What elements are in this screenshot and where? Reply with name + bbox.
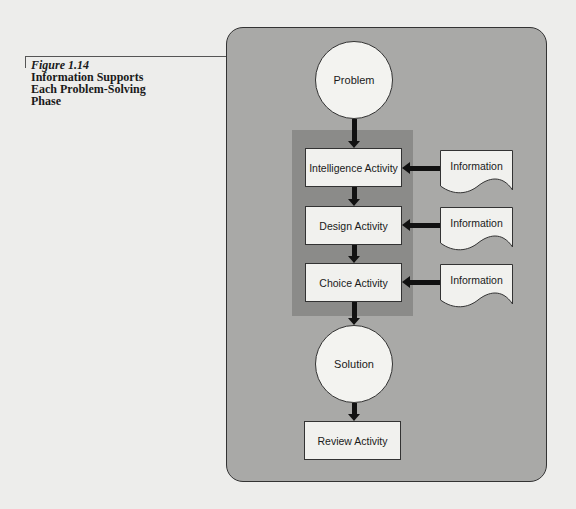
arrowhead-down-icon bbox=[348, 318, 360, 325]
problem-node: Problem bbox=[315, 41, 393, 119]
arrowhead-left-icon bbox=[402, 162, 410, 174]
arrow-solution-to-review bbox=[352, 403, 357, 414]
arrowhead-left-icon bbox=[402, 276, 410, 288]
arrow-problem-to-intelligence bbox=[352, 119, 357, 141]
figure-caption: Figure 1.14 Information Supports Each Pr… bbox=[31, 59, 191, 107]
arrowhead-left-icon bbox=[402, 219, 410, 231]
information-label: Information bbox=[440, 217, 513, 229]
information-document-3: Information bbox=[440, 264, 513, 310]
arrowhead-down-icon bbox=[348, 141, 360, 148]
arrowhead-down-icon bbox=[348, 414, 360, 421]
arrow-choice-to-solution bbox=[352, 302, 357, 318]
solution-node: Solution bbox=[315, 325, 393, 403]
information-document-1: Information bbox=[440, 150, 513, 196]
design-activity-box: Design Activity bbox=[305, 206, 402, 245]
information-document-2: Information bbox=[440, 207, 513, 253]
arrowhead-down-icon bbox=[348, 199, 360, 206]
review-activity-box: Review Activity bbox=[304, 421, 401, 460]
figure-title-line-3: Phase bbox=[31, 95, 191, 107]
arrow-information-to-intelligence bbox=[410, 166, 440, 171]
arrow-intelligence-to-design bbox=[352, 187, 357, 199]
caption-tick bbox=[25, 56, 26, 68]
arrowhead-down-icon bbox=[348, 256, 360, 263]
document-icon bbox=[440, 150, 513, 196]
arrow-information-to-choice bbox=[410, 280, 440, 285]
choice-activity-box: Choice Activity bbox=[305, 263, 402, 302]
solution-label: Solution bbox=[334, 358, 374, 370]
arrow-information-to-design bbox=[410, 223, 440, 228]
information-label: Information bbox=[440, 274, 513, 286]
intelligence-activity-box: Intelligence Activity bbox=[305, 148, 402, 187]
review-activity-label: Review Activity bbox=[317, 435, 387, 447]
intelligence-activity-label: Intelligence Activity bbox=[309, 162, 398, 174]
arrow-design-to-choice bbox=[352, 245, 357, 256]
document-icon bbox=[440, 264, 513, 310]
design-activity-label: Design Activity bbox=[319, 220, 387, 232]
document-icon bbox=[440, 207, 513, 253]
information-label: Information bbox=[440, 160, 513, 172]
caption-rule bbox=[25, 56, 228, 57]
problem-label: Problem bbox=[334, 74, 375, 86]
choice-activity-label: Choice Activity bbox=[319, 277, 387, 289]
